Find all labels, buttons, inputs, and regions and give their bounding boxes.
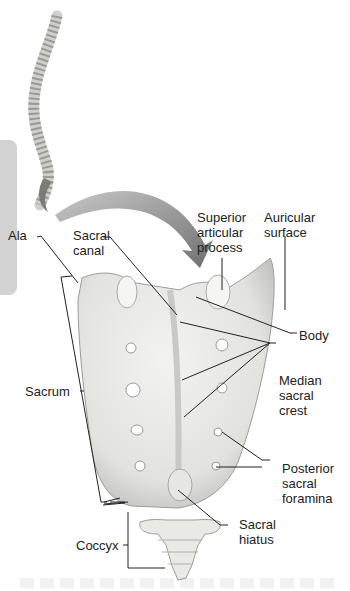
label-auricular-surface: Auricular surface — [264, 210, 315, 240]
vertebral-column-icon — [34, 16, 57, 212]
sacrum-bone — [78, 258, 274, 508]
label-sacrum: Sacrum — [25, 384, 70, 399]
label-ala: Ala — [8, 228, 27, 243]
label-posterior-sacral-foramina: Posterior sacral foramina — [282, 461, 334, 506]
label-sacral-canal: Sacral canal — [73, 228, 110, 258]
label-body: Body — [299, 328, 329, 343]
label-median-sacral-crest: Median sacral crest — [279, 373, 322, 418]
label-superior-articular-process: Superior articular process — [197, 210, 246, 255]
label-coccyx: Coccyx — [76, 538, 119, 553]
coccyx-bone — [140, 520, 221, 581]
label-sacral-hiatus: Sacral hiatus — [239, 517, 276, 547]
bleed-through-caption — [20, 578, 340, 588]
